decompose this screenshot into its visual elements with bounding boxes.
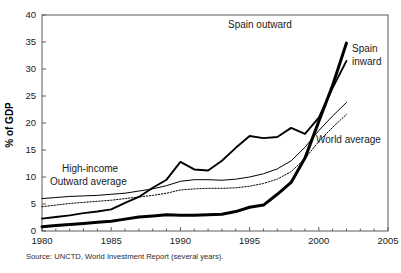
chart-figure: 0510152025303540198019851990199520002005…	[0, 0, 401, 273]
annotation-spain-inward-1: Spain	[352, 43, 378, 54]
x-tick-label: 1985	[101, 235, 122, 246]
y-tick-label: 40	[25, 9, 36, 20]
x-tick-label: 1990	[170, 235, 191, 246]
annotation-spain-inward-2: inward	[352, 56, 381, 67]
annotation-high-income-1: High-income	[62, 163, 119, 174]
source-note: Source: UNCTD, World Investment Report (…	[26, 252, 223, 261]
x-tick-label: 1995	[239, 235, 260, 246]
y-tick-label: 20	[25, 117, 36, 128]
y-tick-label: 5	[31, 198, 36, 209]
y-axis-title: % of GDP	[4, 102, 15, 148]
x-tick-label: 2005	[377, 235, 398, 246]
x-tick-label: 2000	[308, 235, 329, 246]
y-tick-label: 10	[25, 171, 36, 182]
annotation-world-average: World average	[316, 134, 381, 145]
x-tick-label: 1980	[31, 235, 52, 246]
y-tick-label: 30	[25, 63, 36, 74]
annotation-spain-outward: Spain outward	[228, 19, 292, 30]
annotation-high-income-2: Outward average	[50, 176, 127, 187]
y-tick-label: 15	[25, 144, 36, 155]
y-tick-label: 35	[25, 36, 36, 47]
y-tick-label: 25	[25, 90, 36, 101]
